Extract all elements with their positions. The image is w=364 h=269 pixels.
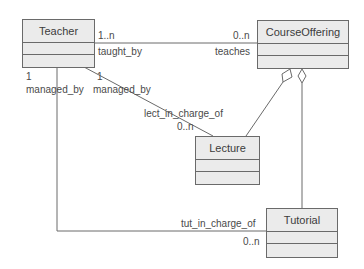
class-course-offering[interactable]: CourseOffering bbox=[257, 20, 349, 69]
attributes-compartment bbox=[196, 160, 259, 172]
multiplicity-label: 0..n bbox=[233, 30, 250, 42]
multiplicity-label: 0..n bbox=[243, 236, 260, 248]
class-teacher[interactable]: Teacher bbox=[22, 19, 95, 68]
attributes-compartment bbox=[258, 44, 348, 56]
class-tutorial[interactable]: Tutorial bbox=[266, 208, 338, 258]
multiplicity-label: 1 bbox=[97, 71, 103, 83]
aggregation-lecture-line bbox=[246, 82, 283, 136]
operations-compartment bbox=[258, 56, 348, 68]
class-lecture[interactable]: Lecture bbox=[195, 136, 260, 185]
operations-compartment bbox=[23, 55, 94, 67]
role-label: taught_by bbox=[98, 46, 142, 58]
role-label: managed_by bbox=[26, 84, 84, 96]
aggregation-diamond-icon bbox=[282, 69, 292, 82]
attributes-compartment bbox=[23, 43, 94, 55]
operations-compartment bbox=[267, 244, 337, 256]
class-name: Teacher bbox=[23, 20, 94, 43]
class-name: Tutorial bbox=[267, 209, 337, 232]
role-label: lect_in_charge_of bbox=[144, 108, 223, 120]
operations-compartment bbox=[196, 172, 259, 184]
class-name: Lecture bbox=[196, 137, 259, 160]
aggregation-diamond-icon bbox=[298, 69, 306, 83]
role-label: teaches bbox=[215, 46, 250, 58]
role-label: managed_by bbox=[93, 84, 151, 96]
class-name: CourseOffering bbox=[258, 21, 348, 44]
role-label: tut_in_charge_of bbox=[181, 218, 256, 230]
multiplicity-label: 1 bbox=[26, 71, 32, 83]
multiplicity-label: 1..n bbox=[98, 30, 115, 42]
multiplicity-label: 0..n bbox=[177, 121, 194, 133]
attributes-compartment bbox=[267, 232, 337, 244]
